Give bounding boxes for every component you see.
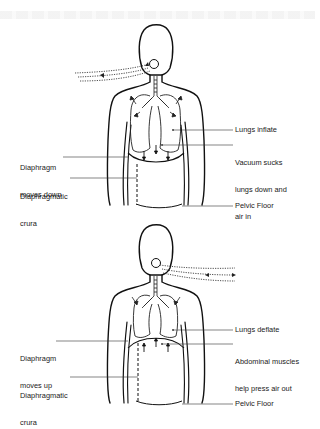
arm-right-inner	[185, 122, 189, 205]
label-pelvic-floor: Pelvic Floor	[235, 399, 274, 408]
label-lungs-inflate: Lungs inflate	[235, 125, 277, 134]
arm-left-inner-2	[128, 325, 131, 403]
airflow-in-arrows	[75, 64, 150, 81]
label-pelvic-floor: Pelvic Floor	[235, 201, 274, 210]
airflow-out-arrows	[160, 265, 235, 281]
head-outline	[139, 25, 173, 75]
mouth-icon	[152, 259, 161, 268]
label-line: crura	[20, 418, 68, 427]
arm-left-inner	[123, 122, 127, 205]
label-line: help press air out	[235, 384, 299, 393]
pelvic-floor	[136, 204, 182, 208]
label-abdominal-muscles: Abdominal muscles help press air out	[235, 339, 299, 402]
label-line: Diaphragm	[20, 163, 62, 172]
arm-left-inner	[123, 322, 127, 403]
label-line: Vacuum sucks	[235, 158, 287, 167]
arm-right-inner-2	[181, 125, 184, 205]
arm-right-inner-2	[181, 325, 184, 403]
arm-right-inner	[185, 322, 189, 403]
label-lungs-deflate: Lungs deflate	[235, 325, 279, 334]
label-line: lungs down and	[235, 185, 287, 194]
label-diaphragmatic-crura: Diaphragmatic crura	[20, 373, 68, 429]
left-lung	[130, 95, 152, 152]
pelvic-floor	[136, 401, 182, 405]
mouth-icon	[150, 60, 159, 69]
label-line: Diaphragmatic	[20, 192, 68, 201]
label-line: Abdominal muscles	[235, 357, 299, 366]
right-lung	[158, 95, 181, 152]
label-line: Diaphragm	[20, 354, 56, 363]
label-line: Diaphragmatic	[20, 391, 68, 400]
